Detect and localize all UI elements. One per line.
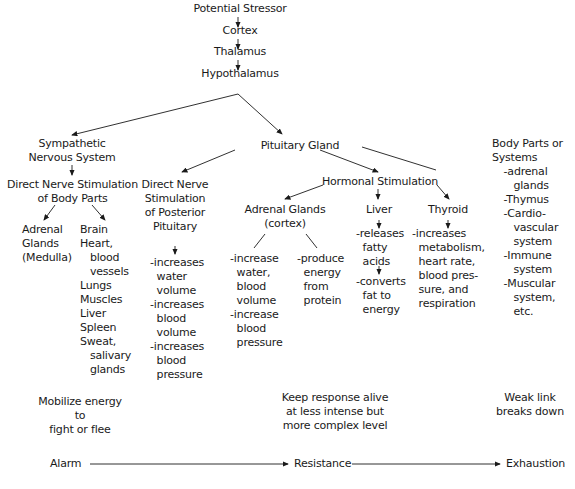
thyroid-effects-list: -increases metabolism, heart rate, blood… [412, 227, 485, 311]
cortex-effects-right: -produce energy from protein [297, 252, 344, 308]
body-parts-list: Brain Heart, blood vessels Lungs Muscles… [80, 223, 131, 377]
alarm-description: Mobilize energy to fight or flee [20, 395, 140, 437]
stage-exhaustion: Exhaustion [506, 457, 565, 471]
thalamus-node: Thalamus [190, 45, 290, 59]
liver-effect-converts: -converts fat to energy [356, 275, 406, 317]
thyroid-node: Thyroid [420, 203, 476, 217]
resistance-description: Keep response alive at less intense but … [260, 391, 410, 433]
stage-resistance: Resistance [294, 457, 351, 471]
liver-effect-fatty-acids: -releases fatty acids [356, 227, 404, 269]
liver-node: Liver [355, 203, 403, 217]
adrenal-medulla-node: Adrenal Glands (Medulla) [22, 223, 72, 265]
systems-list: -adrenal glands -Thymus -Cardio- vascula… [497, 165, 558, 319]
cortex-effects-left: -increase water, blood volume -increase … [230, 252, 283, 350]
exhaustion-description: Weak link breaks down [485, 391, 575, 419]
stressor-node: Potential Stressor [170, 2, 310, 16]
pituitary-node: Pituitary Gland [235, 139, 365, 153]
sympathetic-node: Sympathetic Nervous System [12, 137, 132, 165]
stage-alarm: Alarm [50, 457, 81, 471]
systems-title: Body Parts or Systems [492, 137, 563, 165]
direct-nerve-body-node: Direct Nerve Stimulation of Body Parts [0, 178, 145, 206]
hormonal-stimulation-node: Hormonal Stimulation [320, 175, 440, 189]
posterior-pituitary-node: Direct Nerve Stimulation of Posterior Pi… [130, 178, 220, 234]
cortex-node: Cortex [190, 24, 290, 38]
posterior-effects-list: -increases water volume -increases blood… [150, 256, 204, 382]
adrenal-cortex-node: Adrenal Glands (cortex) [235, 203, 335, 231]
hypothalamus-node: Hypothalamus [180, 67, 300, 81]
